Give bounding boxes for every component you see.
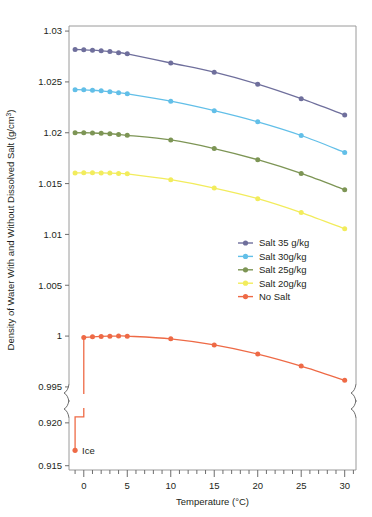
data-point [107,171,112,176]
legend-label: No Salt [259,291,291,302]
y-tick-label-lower: 0.915 [38,460,62,471]
data-point [99,48,104,53]
data-point [99,88,104,93]
axis-break-lower-right [351,400,356,418]
legend-swatch-marker [243,294,248,299]
data-point [125,91,130,96]
data-point [212,186,217,191]
data-point [342,112,347,117]
x-tick-label: 5 [125,480,130,491]
data-point [212,70,217,75]
data-point [299,171,304,176]
upper-panel-frame [69,26,356,384]
series-line [75,90,345,153]
data-point [73,87,78,92]
legend-swatch-marker [243,267,248,272]
x-tick-label: 25 [296,480,307,491]
data-point [107,89,112,94]
legend-label: Salt 35 g/kg [259,237,309,248]
y-tick-label-upper: 1.01 [44,229,63,240]
series-line [75,133,345,190]
legend-label: Salt 25g/kg [259,264,307,275]
data-point [107,334,112,339]
data-point [99,334,104,339]
data-point [299,133,304,138]
x-tick-label: 15 [209,480,220,491]
x-tick-label: 20 [252,480,263,491]
y-tick-label-upper: 1.015 [38,178,62,189]
data-point [299,210,304,215]
data-point [168,177,173,182]
data-point [81,170,86,175]
axis-break-lower-left [64,400,69,418]
lower-panel-frame [69,418,356,470]
data-point [255,119,260,124]
legend-label: Salt 30g/kg [259,251,307,262]
series-salt-20g-kg [73,170,348,231]
legend-swatch-marker [243,254,248,259]
data-point [81,87,86,92]
y-tick-label-upper: 1.025 [38,76,62,87]
legend-swatch-marker [243,281,248,286]
data-point [125,51,130,56]
data-point [116,171,121,176]
data-point [90,130,95,135]
data-point [168,61,173,66]
data-point [342,150,347,155]
series-no-salt [81,334,347,383]
data-point [212,146,217,151]
y-tick-label-lower: 0.920 [38,417,62,428]
data-point [116,90,121,95]
data-point [125,133,130,138]
y-axis-title: Density of Water With and Without Dissol… [5,110,16,351]
y-axis-upper: 1.031.0251.021.0151.011.00510.995 [38,25,69,392]
data-point [168,336,173,341]
data-point [90,48,95,53]
data-point [73,47,78,52]
data-point [212,108,217,113]
data-point [255,352,260,357]
data-point [168,99,173,104]
series-salt-35-g-kg [73,47,348,117]
y-tick-label-upper: 1 [57,330,62,341]
data-point [212,342,217,347]
series-ice: Ice [72,337,94,455]
y-axis-title-text: Density of Water With and Without Dissol… [5,110,16,351]
data-point [90,88,95,93]
legend-swatch-marker [243,240,248,245]
x-tick-label: 30 [339,480,350,491]
data-point [342,187,347,192]
y-tick-label-upper: 1.005 [38,280,62,291]
data-point [73,130,78,135]
series-salt-30g-kg [73,87,348,155]
data-point [116,50,121,55]
data-point [116,132,121,137]
data-point [299,364,304,369]
data-point [90,170,95,175]
data-point [255,82,260,87]
data-point [99,170,104,175]
data-point [81,47,86,52]
x-axis-title: Temperature (°C) [176,496,249,507]
data-point [342,378,347,383]
legend-label: Salt 20g/kg [259,278,307,289]
data-point [116,334,121,339]
data-point [73,170,78,175]
chart-canvas: 1.031.0251.021.0151.011.00510.9950.9200.… [0,0,372,517]
y-tick-label-upper: 0.995 [38,381,62,392]
series-line [75,49,345,114]
x-tick-label: 10 [165,480,176,491]
data-point [81,130,86,135]
data-point [107,131,112,136]
x-tick-label: 0 [81,480,86,491]
y-tick-label-upper: 1.02 [44,127,63,138]
data-point [255,157,260,162]
data-point [99,131,104,136]
series-line [75,173,345,229]
y-axis-lower: 0.9200.915 [38,417,69,471]
data-point [90,334,95,339]
chart-figure: 1.031.0251.021.0151.011.00510.9950.9200.… [0,0,372,517]
series-salt-25g-kg [73,130,348,192]
data-point [299,96,304,101]
x-axis: 051015202530Temperature (°C) [75,470,353,507]
